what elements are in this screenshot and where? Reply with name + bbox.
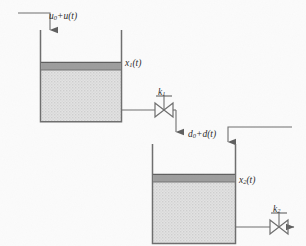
- label-tank2-level: x2(t): [239, 176, 255, 186]
- label-valve-k2: k2: [273, 205, 280, 215]
- label-valve-k1: k1: [158, 88, 165, 98]
- inlet-pipe-group: [18, 13, 50, 30]
- valve-k1-group[interactable]: [155, 96, 173, 117]
- label-tank1-level: x1(t): [125, 59, 141, 69]
- diagram-canvas: [0, 0, 306, 246]
- tank-2-surface-band: [153, 174, 235, 182]
- tank-1-liquid-fill: [41, 70, 121, 122]
- disturbance-pipe-group: [228, 127, 292, 142]
- valve-k2-group[interactable]: [270, 213, 288, 234]
- label-disturbance-flow: d0+d(t): [188, 130, 216, 140]
- label-inlet-flow: u0+u(t): [49, 12, 77, 22]
- tank-2-group: [153, 144, 236, 244]
- tank-1-surface-band: [41, 62, 121, 70]
- disturbance-pipe-line: [228, 127, 292, 142]
- process-flow-diagram: u0+u(t) x1(t) k1 d0+d(t) x2(t) k2: [0, 0, 306, 246]
- tank-1-group: [41, 30, 122, 122]
- tank-2-liquid-fill: [153, 182, 235, 244]
- inlet-pipe-line: [18, 13, 50, 30]
